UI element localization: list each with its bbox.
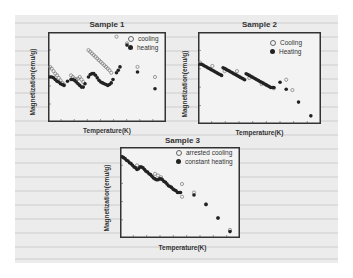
legend: arrested cooling constant heating	[176, 148, 233, 166]
y-axis-label: Magnetization(emu/g)	[181, 38, 188, 118]
filled-circle-icon	[176, 159, 181, 164]
open-circle-icon	[176, 150, 182, 156]
chart-title: Sample 1	[48, 20, 166, 29]
legend-label: Cooling	[280, 38, 302, 47]
x-axis-label: Temperature(K)	[120, 244, 245, 251]
open-circle-icon	[270, 40, 276, 46]
legend: Cooling Heating	[270, 38, 302, 56]
y-axis-label: Magnetization(emu/g)	[103, 152, 110, 232]
legend: cooling heating	[128, 34, 159, 52]
legend-label: constant heating	[185, 157, 233, 166]
legend-label: arrested cooling	[186, 148, 232, 157]
y-axis-label: Magnetization(emu/g)	[29, 36, 36, 116]
open-circle-icon	[128, 36, 134, 42]
filled-circle-icon	[270, 49, 275, 54]
chart-title: Sample 2	[198, 20, 321, 29]
plot-area	[198, 32, 321, 124]
x-axis-label: Temperature(K)	[198, 129, 321, 136]
filled-circle-icon	[128, 45, 133, 50]
legend-label: cooling	[138, 34, 159, 43]
legend-label: heating	[137, 43, 158, 52]
x-axis-label: Temperature(K)	[48, 127, 166, 134]
chart-title: Sample 3	[120, 136, 245, 145]
legend-label: Heating	[279, 47, 301, 56]
